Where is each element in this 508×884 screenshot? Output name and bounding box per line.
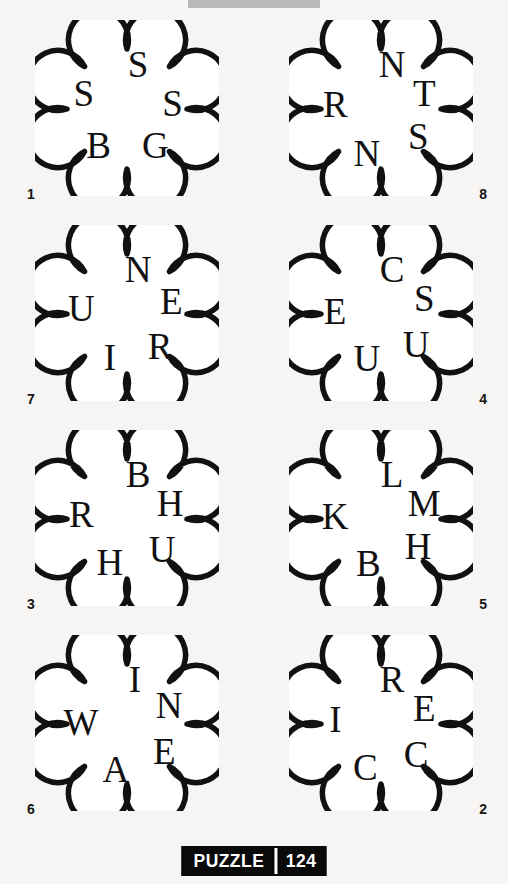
letter-ring: INEAW (35, 635, 219, 811)
cloud-shape-wrapper: NTSNR (289, 20, 473, 196)
cloud-letter: B (356, 545, 381, 582)
puzzle-footer-separator (274, 848, 277, 874)
cloud-letter: S (128, 46, 149, 83)
cloud-shape-wrapper: INEAW (35, 635, 219, 811)
cloud-letter: S (414, 280, 435, 317)
cloud-letter: M (408, 485, 441, 522)
letter-ring: RECCI (289, 635, 473, 811)
cloud-letter: H (405, 528, 432, 565)
cloud-letter: N (156, 687, 183, 724)
cloud-letter: G (142, 127, 169, 164)
cloud-letter: E (413, 690, 436, 727)
cloud-letter: A (103, 750, 130, 787)
puzzle-cloud-7[interactable]: NERIU7 (0, 217, 254, 425)
cloud-index-number: 1 (27, 186, 35, 202)
letter-ring: LMHBK (289, 430, 473, 606)
cloud-letter: C (380, 251, 405, 288)
puzzle-cloud-5[interactable]: LMHBK5 (254, 422, 508, 630)
puzzle-cloud-2[interactable]: RECCI2 (254, 627, 508, 835)
letter-ring: NERIU (35, 225, 219, 401)
cloud-letter: R (380, 661, 405, 698)
cloud-letter: I (129, 660, 141, 697)
cloud-letter: K (322, 497, 349, 534)
letter-ring: CSUUE (289, 225, 473, 401)
cloud-letter: U (149, 530, 176, 567)
cloud-letter: N (379, 46, 406, 83)
cloud-letter: I (104, 338, 116, 375)
top-banner-fragment (188, 0, 320, 8)
cloud-letter: E (153, 733, 176, 770)
cloud-letter: R (323, 86, 348, 123)
cloud-letter: C (353, 749, 378, 786)
cloud-index-number: 2 (479, 801, 487, 817)
cloud-letter: T (413, 75, 436, 112)
cloud-letter: S (74, 75, 95, 112)
cloud-letter: S (162, 84, 183, 121)
letter-ring: NTSNR (289, 20, 473, 196)
cloud-letter: B (126, 456, 151, 493)
cloud-letter: S (408, 118, 429, 155)
cloud-shape-wrapper: RECCI (289, 635, 473, 811)
cloud-shape-wrapper: CSUUE (289, 225, 473, 401)
cloud-letter: U (403, 325, 430, 362)
cloud-shape-wrapper: LMHBK (289, 430, 473, 606)
cloud-index-number: 4 (479, 391, 487, 407)
cloud-index-number: 6 (27, 801, 35, 817)
cloud-letter: W (64, 704, 99, 741)
cloud-index-number: 5 (479, 596, 487, 612)
cloud-letter: N (125, 251, 152, 288)
cloud-index-number: 3 (27, 596, 35, 612)
cloud-letter: C (404, 735, 429, 772)
puzzle-cloud-3[interactable]: BHUHR3 (0, 422, 254, 630)
letter-ring: BHUHR (35, 430, 219, 606)
cloud-letter: R (148, 328, 173, 365)
cloud-letter: U (68, 289, 95, 326)
puzzle-page: SSGBS1NTSNR8NERIU7CSUUE4BHUHR3LMHBK5INEA… (0, 0, 508, 884)
cloud-index-number: 8 (479, 186, 487, 202)
puzzle-cloud-6[interactable]: INEAW6 (0, 627, 254, 835)
puzzle-footer-label: PUZZLE (187, 848, 271, 874)
cloud-letter: B (86, 127, 111, 164)
cloud-letter: E (160, 283, 183, 320)
cloud-letter: E (324, 292, 347, 329)
cloud-letter: R (69, 496, 94, 533)
cloud-index-number: 7 (27, 391, 35, 407)
cloud-letter: I (329, 701, 341, 738)
cloud-shape-wrapper: SSGBS (35, 20, 219, 196)
cloud-letter: H (157, 485, 184, 522)
puzzle-footer-plate: PUZZLE 124 (181, 846, 326, 876)
cloud-grid: SSGBS1NTSNR8NERIU7CSUUE4BHUHR3LMHBK5INEA… (0, 12, 508, 832)
letter-ring: SSGBS (35, 20, 219, 196)
cloud-shape-wrapper: NERIU (35, 225, 219, 401)
cloud-letter: U (353, 339, 380, 376)
puzzle-cloud-8[interactable]: NTSNR8 (254, 12, 508, 220)
puzzle-cloud-4[interactable]: CSUUE4 (254, 217, 508, 425)
cloud-letter: L (381, 456, 404, 493)
cloud-shape-wrapper: BHUHR (35, 430, 219, 606)
puzzle-cloud-1[interactable]: SSGBS1 (0, 12, 254, 220)
cloud-letter: H (96, 543, 123, 580)
cloud-letter: N (353, 134, 380, 171)
puzzle-footer-number: 124 (279, 848, 322, 874)
